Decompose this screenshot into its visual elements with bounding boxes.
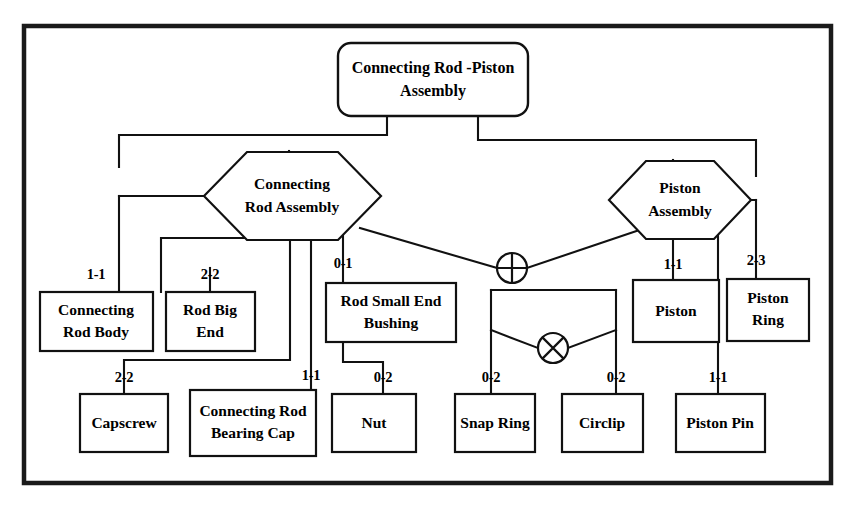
node-circlip[interactable]: 0-2 Circlip <box>562 369 643 452</box>
connecting-rod-bearing-cap-label-line2: Bearing Cap <box>211 424 295 441</box>
rod-big-end-label-line2: End <box>196 323 224 340</box>
node-connecting-rod-bearing-cap[interactable]: 1-1 Connecting Rod Bearing Cap <box>190 367 320 456</box>
connecting-rod-body-label-line1: Connecting <box>58 301 134 318</box>
node-capscrew[interactable]: 2-2 Capscrew <box>80 369 168 452</box>
link-or-left-branch <box>360 228 497 268</box>
node-piston-assembly[interactable]: Piston Assembly <box>609 161 751 239</box>
cardinality-rod-big-end: 2-2 <box>201 266 219 282</box>
link-nut <box>343 341 383 394</box>
rod-small-end-bushing-label-line1: Rod Small End <box>341 292 442 309</box>
cardinality-capscrew: 2-2 <box>115 369 133 385</box>
cardinality-rod-small-end-bushing: 0-1 <box>334 255 352 271</box>
node-rod-big-end[interactable]: 2-2 Rod Big End <box>166 266 255 351</box>
node-piston-ring[interactable]: 2-3 Piston Ring <box>727 252 809 341</box>
root-node-label-line1: Connecting Rod -Piston <box>352 59 515 77</box>
connecting-rod-assembly-label-line1: Connecting <box>254 175 330 192</box>
circlip-label-line1: Circlip <box>579 414 625 431</box>
connecting-rod-body-label-line2: Rod Body <box>63 323 129 340</box>
rod-small-end-bushing-label-line2: Bushing <box>364 314 419 331</box>
node-piston[interactable]: 1-1 Piston <box>633 256 719 342</box>
link-xor-right-branch <box>568 330 616 348</box>
cardinality-piston-pin: 1-1 <box>709 369 727 385</box>
node-nut[interactable]: 0-2 Nut <box>332 369 416 452</box>
cardinality-connecting-rod-bearing-cap: 1-1 <box>302 367 320 383</box>
connecting-rod-bearing-cap-label-line1: Connecting Rod <box>199 402 307 419</box>
nut-label-line1: Nut <box>362 414 388 431</box>
piston-ring-label-line1: Piston <box>747 289 789 306</box>
node-connecting-rod-body[interactable]: 1-1 Connecting Rod Body <box>40 266 153 351</box>
cardinality-circlip: 0-2 <box>607 369 625 385</box>
piston-assembly-shape <box>609 161 751 239</box>
cardinality-piston-ring: 2-3 <box>747 252 765 268</box>
node-root-assembly[interactable]: Connecting Rod -Piston Assembly <box>338 43 528 116</box>
cardinality-connecting-rod-body: 1-1 <box>87 266 105 282</box>
cardinality-snap-ring: 0-2 <box>482 369 500 385</box>
piston-assembly-label-line2: Assembly <box>648 202 712 219</box>
xor-connector-symbol <box>538 333 568 363</box>
link-xor-left-branch <box>491 330 538 348</box>
piston-pin-label-line1: Piston Pin <box>686 414 754 431</box>
connector-lines <box>119 116 756 394</box>
root-node-shape <box>338 43 528 116</box>
cardinality-nut: 0-2 <box>374 369 392 385</box>
assembly-diagram-canvas: Connecting Rod -Piston Assembly Connecti… <box>0 0 853 507</box>
cardinality-piston: 1-1 <box>664 256 682 272</box>
snap-ring-label-line1: Snap Ring <box>460 414 530 431</box>
connecting-rod-assembly-shape <box>204 152 381 240</box>
rod-big-end-label-line1: Rod Big <box>183 301 237 318</box>
capscrew-label-line1: Capscrew <box>91 414 157 431</box>
node-piston-pin[interactable]: 1-1 Piston Pin <box>676 369 765 452</box>
assembly-structure-diagram: Connecting Rod -Piston Assembly Connecti… <box>0 0 853 507</box>
root-node-label-line2: Assembly <box>400 82 466 100</box>
node-snap-ring[interactable]: 0-2 Snap Ring <box>455 369 535 452</box>
connecting-rod-assembly-label-line2: Rod Assembly <box>245 198 340 215</box>
node-rod-small-end-bushing[interactable]: 0-1 Rod Small End Bushing <box>326 255 456 342</box>
node-connecting-rod-assembly[interactable]: Connecting Rod Assembly <box>204 152 381 240</box>
piston-label-line1: Piston <box>655 302 697 319</box>
piston-assembly-label-line1: Piston <box>659 179 701 196</box>
piston-ring-label-line2: Ring <box>752 311 784 328</box>
or-connector-symbol <box>497 253 527 283</box>
